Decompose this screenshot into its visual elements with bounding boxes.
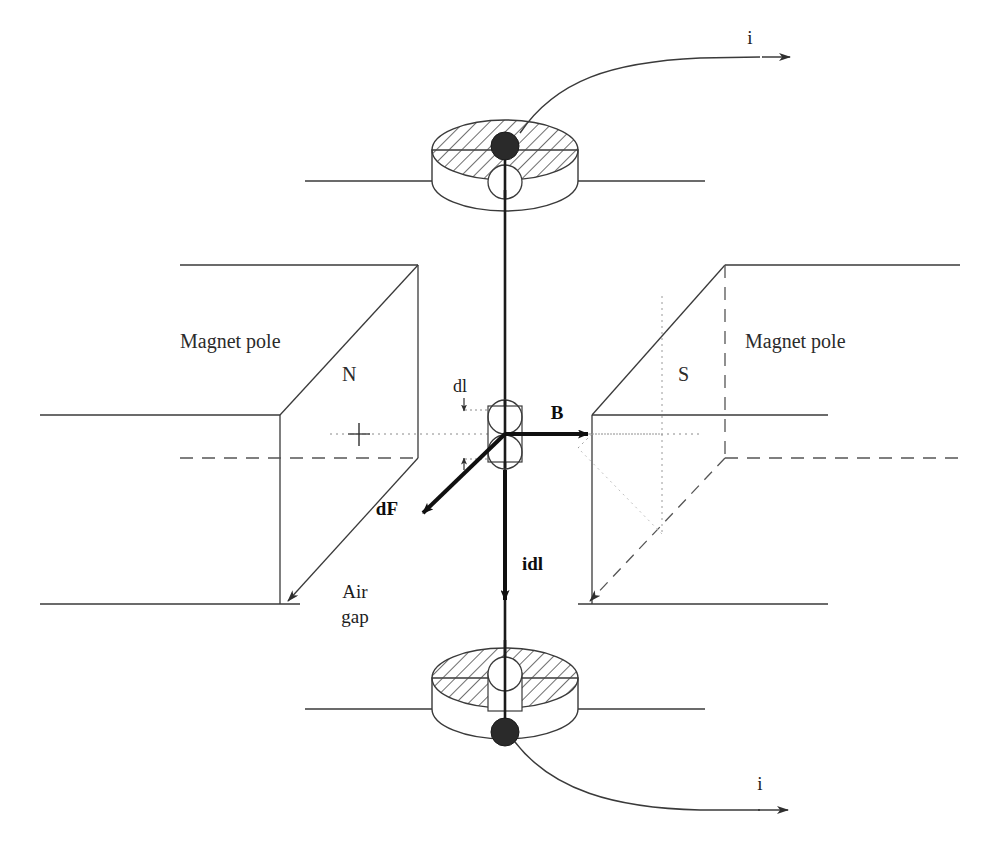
- dl-label: dl: [453, 376, 467, 396]
- vector-dF-label: dF: [376, 498, 398, 519]
- current-label-top: i: [747, 27, 752, 48]
- bottom-coil-cylinder: [432, 640, 578, 746]
- physics-diagram-figure: i: [0, 0, 1001, 850]
- vector-B-label: B: [551, 402, 564, 423]
- magnet-pole-label-right: Magnet pole: [745, 330, 846, 353]
- magnet-pole-label-left: Magnet pole: [180, 330, 281, 353]
- diagram-canvas: i: [0, 0, 1001, 850]
- air-gap-label-line2: gap: [341, 606, 368, 627]
- right-magnet-pole: [578, 265, 960, 604]
- vector-idl-label: idl: [522, 553, 543, 574]
- current-label-bottom: i: [757, 773, 762, 794]
- bottom-current-lead: [515, 742, 788, 810]
- south-pole-label: S: [678, 363, 689, 385]
- vector-dF: [423, 434, 505, 513]
- top-terminal-dot: [491, 132, 519, 160]
- north-pole-label: N: [342, 363, 356, 385]
- air-gap-label-line1: Air: [342, 581, 368, 602]
- top-current-lead: [520, 57, 790, 133]
- bottom-terminal-dot: [491, 718, 519, 746]
